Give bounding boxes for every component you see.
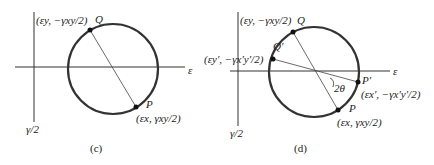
point-Q-label: (εy, −γxy/2) — [36, 14, 88, 27]
caption-d: (d) — [294, 142, 307, 155]
point-P-label: (εx, γxy/2) — [136, 112, 181, 125]
mohr-circle-diagrams: (εy, −γxy/2) Q P (εx, γxy/2) ε γ/2 (c) (… — [0, 0, 434, 165]
gamma-axis-label: γ/2 — [230, 127, 243, 139]
point-P-marker — [134, 105, 139, 110]
panel-d: (εy, −γxy/2) Q Q′ (εy′, −γx′y′/2) P′ (εx… — [204, 12, 421, 155]
point-Pp-label: (εx′, −γx′y′/2) — [361, 88, 421, 101]
point-Qp-marker — [271, 57, 276, 62]
point-Qp-name: Q′ — [273, 40, 284, 52]
epsilon-axis-label: ε — [188, 64, 193, 76]
angle-label: 2θ — [334, 82, 346, 94]
diameter-PQ — [90, 30, 136, 107]
point-Q-marker — [88, 28, 93, 33]
point-P-label: (εx, γxy/2) — [337, 116, 382, 129]
point-Pp-marker — [356, 80, 361, 85]
caption-c: (c) — [90, 142, 103, 155]
point-Q-marker — [291, 30, 296, 35]
point-P-name: P — [348, 102, 356, 114]
gamma-axis-label: γ/2 — [26, 123, 39, 135]
epsilon-axis-label: ε — [393, 65, 398, 77]
point-Q-name: Q — [297, 14, 305, 26]
point-Qp-label: (εy′, −γx′y′/2) — [204, 53, 264, 66]
panel-c: (εy, −γxy/2) Q P (εx, γxy/2) ε γ/2 (c) — [15, 12, 193, 155]
point-P-marker — [336, 108, 341, 113]
point-Q-name: Q — [95, 13, 103, 25]
point-Pp-name: P′ — [361, 74, 372, 86]
point-P-name: P — [145, 98, 153, 110]
point-Q-label: (εy, −γxy/2) — [240, 14, 292, 27]
